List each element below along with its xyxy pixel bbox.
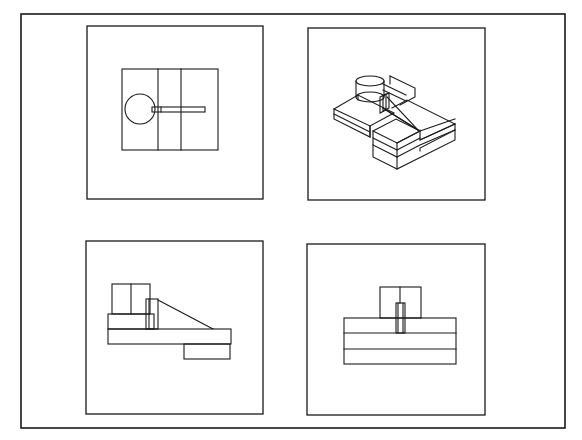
geometry-edge [373,119,420,143]
geometry-edge [397,138,420,150]
viewport-front-view[interactable] [86,241,263,414]
cylinder-ellipse [356,76,384,86]
viewport-isometric-view[interactable] [308,28,485,200]
viewport-frame [86,241,263,414]
viewport-top-view[interactable] [87,26,263,199]
geometry-edge [397,130,455,157]
geometry-rect [152,107,205,112]
geometry-edge [397,130,455,169]
sheet-border [21,14,565,428]
geometry-line [158,300,213,329]
cad-drawing-sheet [0,0,582,440]
geometry-rect [108,329,231,344]
geometry-rect [184,344,230,359]
geometry-rect [108,314,154,329]
geometry-rect [344,318,456,364]
viewport-side-view[interactable] [307,244,485,415]
geometry-circle [125,94,155,124]
geometry-rect [122,69,218,150]
geometry-edge [373,138,397,150]
geometry-edge [390,76,415,105]
